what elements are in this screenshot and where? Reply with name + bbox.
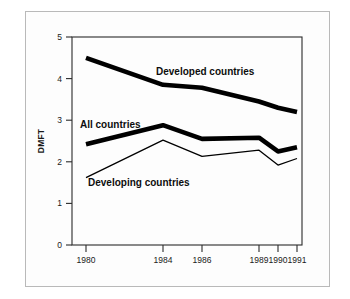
y-axis-title: DMFT: [36, 128, 46, 153]
y-tick-0: 0: [57, 240, 62, 250]
y-tick-5: 5: [57, 32, 62, 42]
series-label-all-countries: All countries: [80, 119, 141, 130]
line-chart: 5 4 3 2 1 0 DMFT 1980 1984 1986 1989 199…: [0, 0, 350, 299]
x-tick-1991: 1991: [288, 255, 307, 265]
series-line-developing-countries: [86, 140, 297, 177]
y-tick-2: 2: [57, 157, 62, 167]
y-tick-1: 1: [57, 198, 62, 208]
x-tick-1986: 1986: [193, 255, 212, 265]
x-axis-ticks: [86, 245, 297, 252]
y-axis-tick-labels: 5 4 3 2 1 0: [57, 32, 62, 250]
x-tick-1984: 1984: [154, 255, 173, 265]
y-tick-3: 3: [57, 115, 62, 125]
x-tick-1989: 1989: [250, 255, 269, 265]
y-tick-4: 4: [57, 74, 62, 84]
series-label-developing-countries: Developing countries: [88, 177, 190, 188]
x-tick-1990: 1990: [269, 255, 288, 265]
chart-figure: 5 4 3 2 1 0 DMFT 1980 1984 1986 1989 199…: [0, 0, 350, 299]
x-axis-tick-labels: 1980 1984 1986 1989 1990 1991: [77, 255, 307, 265]
series-label-developed-countries: Developed countries: [156, 66, 255, 77]
y-axis-ticks: [66, 37, 72, 245]
x-tick-1980: 1980: [77, 255, 96, 265]
